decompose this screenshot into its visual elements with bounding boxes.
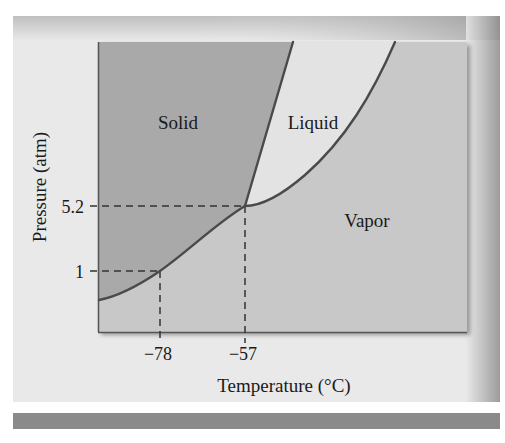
vapor-label: Vapor [344, 210, 390, 231]
x-axis-title: Temperature (°C) [217, 375, 350, 397]
x-tick-minus-78: −78 [144, 344, 172, 364]
bottom-bar [13, 413, 500, 429]
x-tick-minus-57: −57 [229, 344, 257, 364]
phase-diagram: Solid Liquid Vapor 5.2 1 −78 −57 Tempera… [0, 0, 505, 443]
liquid-label: Liquid [288, 112, 339, 133]
y-tick-1: 1 [75, 262, 84, 282]
solid-label: Solid [158, 112, 199, 133]
y-axis-title: Pressure (atm) [29, 132, 51, 242]
y-tick-5-2: 5.2 [62, 197, 85, 217]
